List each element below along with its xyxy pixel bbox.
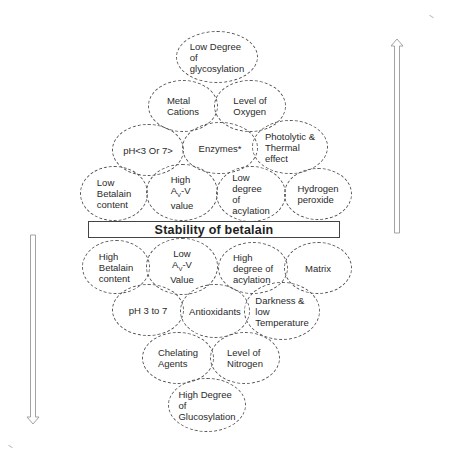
arrow-up-icon <box>390 38 404 234</box>
arrow-down-icon <box>26 234 40 426</box>
bubble-photolytic-thermal: Photolytic & Thermal effect <box>252 120 328 174</box>
bubble-label: pH<3 Or 7> <box>123 145 173 156</box>
bubble-label: High Betalain content <box>99 251 133 284</box>
bubble-antioxidants: Antioxidants <box>180 284 250 338</box>
bubble-label: Enzymes* <box>199 143 242 154</box>
bubble-label: Chelating Agents <box>158 347 198 369</box>
bubble-label: Matrix <box>305 263 331 274</box>
bubble-chelating-agents: Chelating Agents <box>142 332 214 384</box>
bubble-hydrogen-peroxide: Hydrogen peroxide <box>284 168 352 220</box>
bubble-low-betalain-content: Low Betalain content <box>80 166 148 221</box>
bubble-label: High Degree of Glucosylation <box>178 389 235 422</box>
bubble-label: Photolytic & Thermal effect <box>265 131 315 164</box>
bubble-label: Level of Nitrogen <box>227 347 263 369</box>
bubble-label: Hydrogen peroxide <box>297 183 338 205</box>
bubble-level-of-nitrogen: Level of Nitrogen <box>210 332 280 384</box>
betalain-stability-diagram: Low Degree of glycosylation Metal Cation… <box>0 0 451 459</box>
bubble-label: Low degree of acylation <box>232 172 270 216</box>
bubble-label: Darkness & low Temperature <box>255 295 308 328</box>
corner-mark <box>429 15 434 19</box>
bubble-label: High AV-V value <box>171 174 194 212</box>
bubble-label: pH 3 to 7 <box>129 305 168 316</box>
bubble-high-av-v: High AV-V value <box>146 164 218 221</box>
bubble-ph-3-to-7: pH 3 to 7 <box>112 284 184 336</box>
bubble-label: Low Betalain content <box>97 177 131 210</box>
stability-title-banner: Stability of betalain <box>88 221 340 238</box>
bubble-low-degree-acylation: Low degree of acylation <box>216 166 286 222</box>
corner-mark <box>8 445 13 449</box>
bubble-label: Antioxidants <box>189 306 241 317</box>
bubble-darkness-low-temperature: Darkness & low Temperature <box>244 282 320 340</box>
bubble-low-degree-glycosylation: Low Degree of glycosylation <box>176 31 258 83</box>
bubble-label: Low Degree of glycosylation <box>190 41 244 74</box>
bubble-label: High degree of acylation <box>233 252 273 285</box>
bubble-label: Metal Cations <box>167 95 199 117</box>
bubble-label: Level of Oxygen <box>233 95 266 117</box>
bubble-high-degree-glucosylation: High Degree of Glucosylation <box>168 378 246 432</box>
bubble-label: Low AV-V Value <box>170 248 194 286</box>
